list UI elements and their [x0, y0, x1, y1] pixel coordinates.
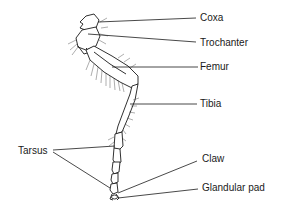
trochanter-label: Trochanter	[200, 37, 248, 49]
claw-label: Claw	[202, 153, 224, 165]
tibia-segment	[116, 84, 138, 134]
tarsus-segment-5	[110, 183, 118, 194]
tarsus-leader-lower	[53, 152, 110, 188]
tarsus-label: Tarsus	[18, 145, 47, 157]
trochanter-leader	[88, 34, 196, 42]
insect-leg-diagram	[0, 0, 284, 210]
glandular-pad-label: Glandular pad	[202, 182, 265, 194]
glandular-pad	[112, 195, 118, 199]
claw-leader	[118, 161, 197, 193]
coxa-label: Coxa	[200, 12, 223, 24]
femur-label: Femur	[200, 61, 229, 73]
tarsus-segment-3	[112, 162, 120, 174]
trochanter-segment	[76, 27, 100, 50]
tibia-label: Tibia	[200, 98, 221, 110]
glandular-pad-leader	[118, 189, 198, 198]
tarsus-segment-4	[111, 173, 118, 184]
tarsus-segment-1	[114, 132, 123, 150]
coxa-leader	[98, 18, 196, 22]
tarsus-leader-upper	[53, 146, 115, 150]
